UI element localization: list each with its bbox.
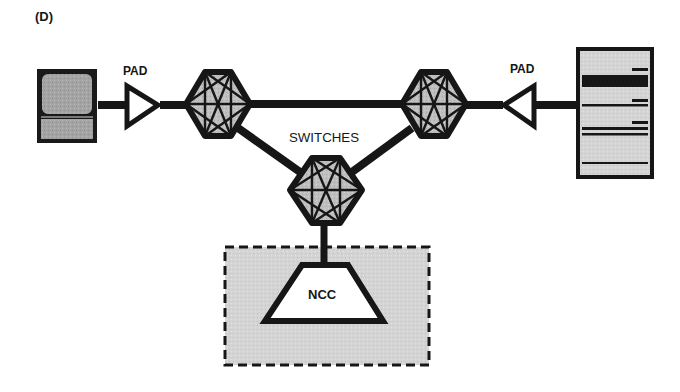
panel-label: (D) xyxy=(35,9,53,24)
edge-switch-right-center xyxy=(352,128,412,172)
terminal-icon xyxy=(37,69,97,143)
network-diagram: (D) PAD PAD xyxy=(0,0,680,392)
host-computer-icon xyxy=(578,49,652,177)
pad-right-triangle xyxy=(504,86,534,126)
ncc-label: NCC xyxy=(308,287,337,302)
pad-left-triangle xyxy=(127,86,158,126)
ncc-area: NCC xyxy=(225,222,429,365)
pad-right-label: PAD xyxy=(510,62,535,76)
pad-left-label: PAD xyxy=(123,64,148,78)
pad-left: PAD xyxy=(123,64,158,126)
switches-label: SWITCHES xyxy=(289,130,359,145)
pad-right: PAD xyxy=(504,62,535,126)
switch-right xyxy=(402,72,466,136)
